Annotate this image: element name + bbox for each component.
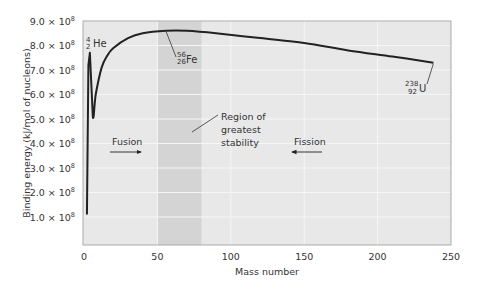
fission-label: Fission	[294, 136, 326, 147]
y-tick-label: 4.0 × 108	[30, 137, 75, 149]
plot-area	[83, 21, 451, 245]
y-axis-label: Binding energy (kJ/mol of nucleons)	[21, 48, 32, 217]
x-tick-label: 150	[295, 251, 313, 262]
plot-background	[83, 21, 451, 245]
x-axis-label: Mass number	[235, 266, 299, 277]
x-tick-label: 50	[151, 251, 163, 262]
u-mass-number: 238	[405, 80, 418, 88]
y-tick-label: 3.0 × 108	[30, 162, 75, 174]
y-tick-label: 9.0 × 108	[30, 15, 75, 27]
he-symbol: He	[93, 38, 107, 49]
y-tick-label: 6.0 × 108	[30, 88, 75, 100]
region-label-line2: greatest	[221, 124, 261, 135]
fe-symbol: Fe	[186, 54, 197, 65]
y-tick-label: 2.0 × 108	[30, 186, 75, 198]
fusion-label: Fusion	[112, 136, 142, 147]
y-tick-label: 7.0 × 108	[30, 64, 75, 76]
he-atomic-number: 2	[86, 43, 90, 51]
u-symbol: U	[419, 83, 426, 94]
x-tick-label: 200	[369, 251, 387, 262]
region-label-line3: stability	[221, 137, 259, 148]
binding-energy-chart: 1.0 × 1082.0 × 1083.0 × 1084.0 × 1085.0 …	[0, 0, 483, 294]
x-tick-label: 0	[81, 251, 87, 262]
x-tick-label: 250	[442, 251, 460, 262]
y-tick-label: 1.0 × 108	[30, 211, 75, 223]
u-atomic-number: 92	[408, 88, 417, 96]
region-label-line1: Region of	[221, 111, 266, 122]
y-tick-label: 8.0 × 108	[30, 39, 75, 51]
x-tick-label: 100	[222, 251, 240, 262]
y-tick-label: 5.0 × 108	[30, 113, 75, 125]
